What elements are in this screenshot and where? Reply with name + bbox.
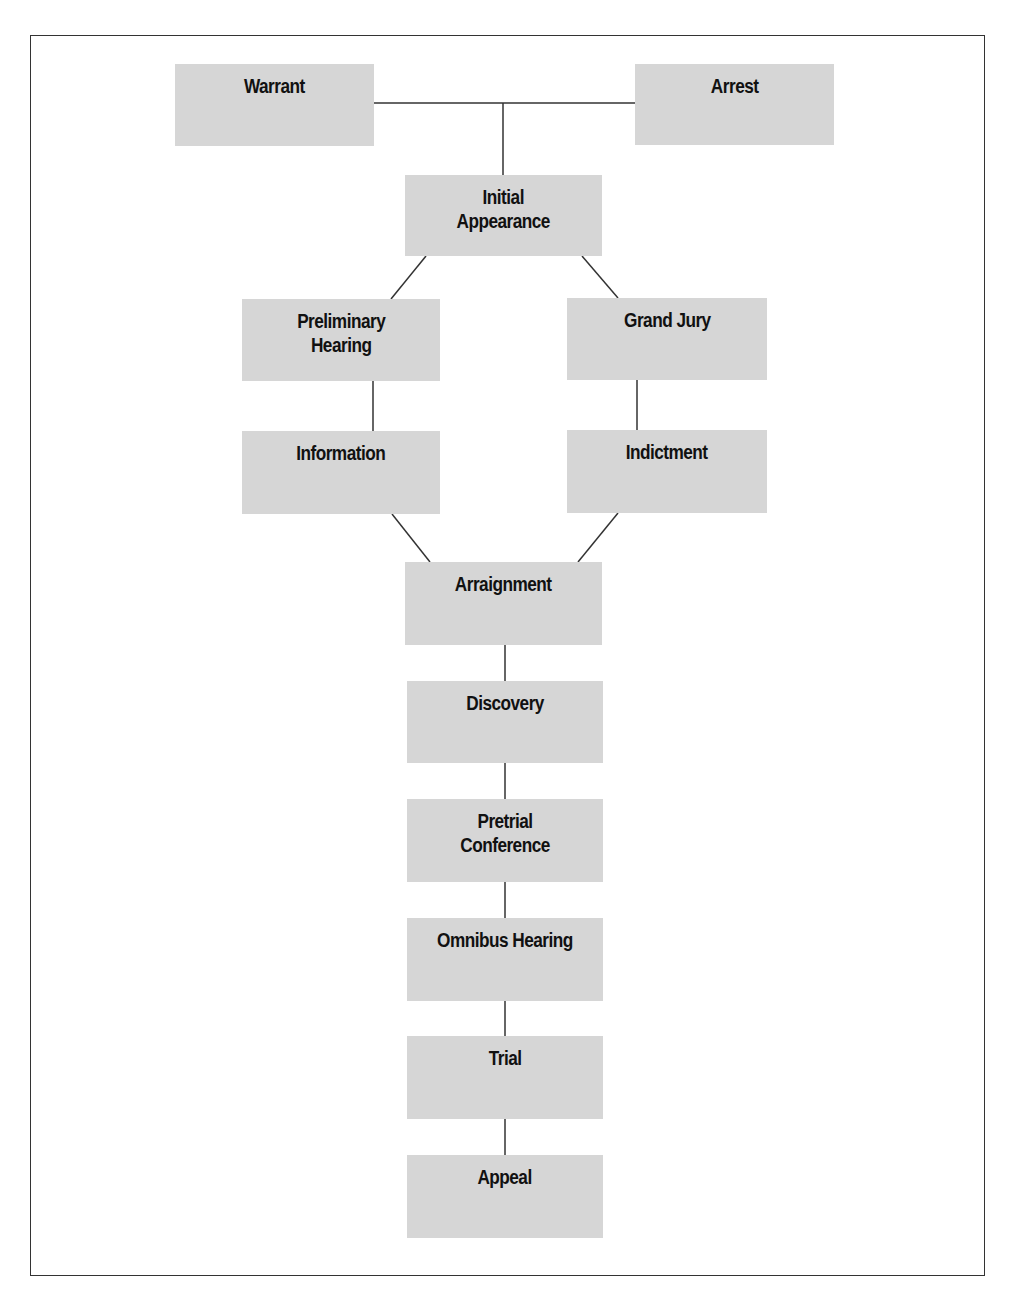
node-label: Warrant	[244, 74, 305, 98]
node-warrant: Warrant	[175, 64, 374, 146]
node-discovery: Discovery	[407, 681, 603, 763]
node-pretrial-conference: Pretrial Conference	[407, 799, 603, 882]
node-information: Information	[242, 431, 440, 514]
node-initial-appearance: Initial Appearance	[405, 175, 602, 256]
node-label: Appeal	[478, 1165, 532, 1189]
node-appeal: Appeal	[407, 1155, 603, 1238]
node-label: Omnibus Hearing	[437, 928, 573, 952]
edge-indictment-to-arraignment	[578, 513, 618, 562]
node-label: Grand Jury	[624, 308, 711, 332]
node-label: Arrest	[711, 74, 759, 98]
node-trial: Trial	[407, 1036, 603, 1119]
node-omnibus-hearing: Omnibus Hearing	[407, 918, 603, 1001]
node-label: Preliminary Hearing	[297, 309, 385, 357]
node-label: Initial Appearance	[457, 185, 550, 233]
node-label: Indictment	[626, 440, 708, 464]
node-label: Information	[297, 441, 386, 465]
node-arrest: Arrest	[635, 64, 834, 145]
node-label: Pretrial Conference	[460, 809, 549, 857]
node-grand-jury: Grand Jury	[567, 298, 767, 380]
node-indictment: Indictment	[567, 430, 767, 513]
node-label: Arraignment	[455, 572, 552, 596]
node-label: Trial	[489, 1046, 522, 1070]
node-label: Discovery	[466, 691, 544, 715]
edge-initial-to-grand-jury	[582, 256, 618, 298]
edge-initial-to-preliminary	[391, 256, 426, 299]
node-preliminary-hearing: Preliminary Hearing	[242, 299, 440, 381]
edge-information-to-arraignment	[392, 514, 430, 562]
node-arraignment: Arraignment	[405, 562, 602, 645]
